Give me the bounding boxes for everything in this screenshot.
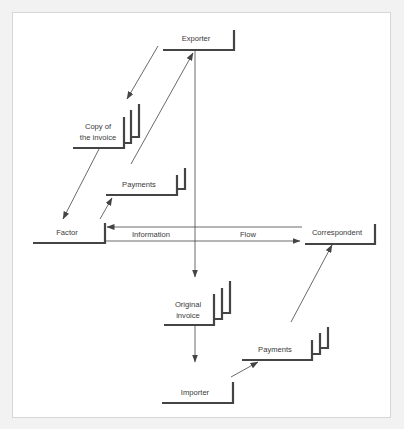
- original-invoice-label-2: invoice: [176, 311, 200, 320]
- importer-label: Importer: [181, 388, 210, 397]
- correspondent-label: Correspondent: [312, 228, 363, 237]
- copy-invoice-stack-3: [131, 104, 139, 137]
- copy-invoice-label-1: Copy of: [85, 122, 112, 131]
- arrow-exporter-to-copy-invoice: [127, 46, 158, 99]
- factor-label: Factor: [56, 228, 78, 237]
- payments-lower-label: Payments: [258, 345, 292, 354]
- payments-lower-stack-2: [312, 333, 320, 354]
- node-original-invoice: Original invoice: [164, 281, 230, 325]
- arrow-importer-to-payments: [231, 362, 258, 377]
- node-copy-invoice: Copy of the invoice: [73, 104, 139, 148]
- original-invoice-bracket: [164, 294, 214, 325]
- payments-upper-label: Payments: [122, 180, 156, 189]
- node-factor: Factor: [33, 223, 105, 243]
- node-exporter: Exporter: [163, 30, 234, 50]
- payments-lower-stack-3: [320, 327, 328, 348]
- payments-upper-stack-2: [177, 168, 185, 189]
- node-correspondent: Correspondent: [305, 224, 375, 244]
- information-label: Information: [132, 230, 170, 239]
- arrow-copy-invoice-to-factor: [63, 149, 99, 219]
- flow-label: Flow: [240, 230, 257, 239]
- factoring-diagram: Exporter Copy of the invoice Payments Fa…: [0, 0, 404, 429]
- arrow-factor-to-payments: [100, 198, 112, 219]
- original-invoice-stack-2: [214, 288, 222, 319]
- copy-invoice-label-2: the invoice: [80, 133, 116, 142]
- node-payments-upper: Payments: [106, 168, 185, 195]
- exporter-label: Exporter: [182, 34, 211, 43]
- node-payments-lower: Payments: [242, 327, 328, 360]
- node-importer: Importer: [162, 382, 233, 403]
- original-invoice-label-1: Original: [175, 300, 201, 309]
- original-invoice-stack-3: [222, 281, 230, 313]
- arrow-payments-to-exporter: [131, 53, 193, 164]
- arrow-payments-to-correspondent: [291, 245, 332, 322]
